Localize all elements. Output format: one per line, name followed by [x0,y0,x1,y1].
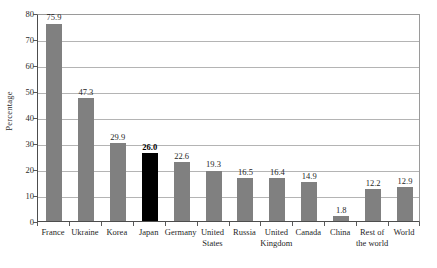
bar [397,187,413,221]
bar [142,153,158,221]
x-axis-category-label: Ukraine [71,227,98,238]
bar-group: 16.5 [230,15,262,221]
bar-group: 29.9 [102,15,134,221]
x-axis-tick-marks [37,222,420,226]
y-axis-tick-labels: 01020304050607080 [16,14,34,222]
y-axis-tick-mark [33,118,37,119]
x-axis-category-label-line1: Korea [106,227,127,237]
x-axis-category-label: China [330,227,350,238]
x-axis-category-label-line1: Rest of [360,227,384,237]
x-axis-tick-mark [388,222,389,226]
x-axis-category-label-line1: China [330,227,350,237]
x-axis-tick-mark [229,222,230,226]
x-axis-category-label-line1: United [265,227,288,237]
bar-group: 14.9 [293,15,325,221]
bar [333,216,349,221]
x-axis-tick-mark [101,222,102,226]
bar-group: 12.2 [357,15,389,221]
bar [301,182,317,221]
x-axis-tick-mark [419,222,420,226]
x-axis-tick-mark [133,222,134,226]
x-axis-category-label: Russia [233,227,256,238]
x-axis-category-label-line2: States [201,238,224,249]
bar-group: 12.9 [389,15,421,221]
bar-group: 19.3 [198,15,230,221]
x-axis-tick-mark [197,222,198,226]
x-axis-tick-mark [37,222,38,226]
plot-area: 75.947.329.926.022.619.316.516.414.91.81… [37,14,420,222]
x-axis-category-label-line1: Canada [296,227,322,237]
bar [365,189,381,221]
x-axis-category-label: UnitedKingdom [260,227,292,248]
x-axis-category-label-line1: World [394,227,415,237]
bar-value-label: 75.9 [47,13,62,22]
y-axis-tick-mark [33,144,37,145]
y-axis-tick-mark [33,66,37,67]
x-axis-category-label-line1: Russia [233,227,256,237]
bar-value-label: 16.4 [270,168,285,177]
y-axis-tick-mark [33,14,37,15]
bar [78,98,94,221]
bars-layer: 75.947.329.926.022.619.316.516.414.91.81… [38,15,419,221]
x-axis-category-label-line1: Japan [139,227,158,237]
bar [174,162,190,221]
bar-value-label: 14.9 [302,172,317,181]
x-axis-category-label: Korea [106,227,127,238]
x-axis-category-label-line2: Kingdom [260,238,292,249]
bar-value-label: 26.0 [142,143,157,152]
bar-value-label: 1.8 [336,206,347,215]
x-axis-tick-mark [292,222,293,226]
x-axis-category-label-line2: the world [356,238,388,249]
bar-value-label: 12.9 [398,177,413,186]
bar-value-label: 29.9 [110,133,125,142]
x-axis-category-label-line1: France [41,227,64,237]
y-axis-tick-mark [33,196,37,197]
bar-value-label: 16.5 [238,168,253,177]
x-axis-category-label: Rest ofthe world [356,227,388,248]
x-axis-category-label-line1: Ukraine [71,227,98,237]
x-axis-category-label: Germany [165,227,197,238]
x-axis-category-label: Japan [139,227,158,238]
x-axis-category-label-line1: Germany [165,227,197,237]
bar-group: 26.0 [134,15,166,221]
bar [237,178,253,221]
bar-value-label: 47.3 [78,88,93,97]
x-axis-tick-mark [69,222,70,226]
bar [46,24,62,221]
y-axis-title-text: Percentage [4,91,14,130]
y-axis-tick-mark [33,170,37,171]
bar-group: 47.3 [70,15,102,221]
y-axis-tick-mark [33,222,37,223]
x-axis-category-labels: FranceUkraineKoreaJapanGermanyUnitedStat… [37,227,420,263]
bar-group: 22.6 [166,15,198,221]
x-axis-tick-mark [356,222,357,226]
bar-value-label: 12.2 [366,179,381,188]
bar-group: 16.4 [261,15,293,221]
bar-group: 1.8 [325,15,357,221]
x-axis-category-label: World [394,227,415,238]
x-axis-category-label-line1: United [201,227,224,237]
y-axis-tick-mark [33,92,37,93]
y-axis-tick-mark [33,40,37,41]
bar [269,178,285,221]
x-axis-category-label: UnitedStates [201,227,224,248]
bar-value-label: 19.3 [206,160,221,169]
x-axis-tick-mark [324,222,325,226]
x-axis-category-label: Canada [296,227,322,238]
x-axis-tick-mark [165,222,166,226]
x-axis-tick-mark [260,222,261,226]
bar-chart: Percentage 01020304050607080 75.947.329.… [0,0,437,268]
bar [206,171,222,221]
bar-group: 75.9 [38,15,70,221]
x-axis-category-label: France [41,227,64,238]
bar-value-label: 22.6 [174,152,189,161]
bar [110,143,126,221]
